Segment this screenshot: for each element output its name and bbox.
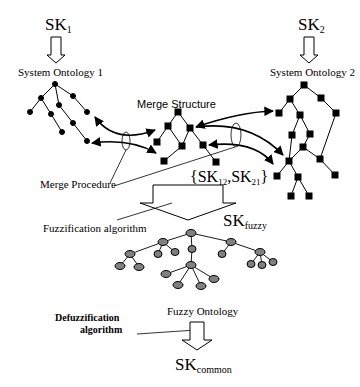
fuzzification-down-arrow (140, 185, 236, 220)
sk2-down-arrow (300, 37, 318, 63)
sk1-label: SK1 (45, 15, 72, 35)
sk-common-label: SKcommon (175, 355, 232, 375)
merge-arrows-left (92, 117, 156, 153)
defuzzification-leader (137, 330, 196, 334)
diagram-svg: SK1 SK2 System Ontology 1 System Ontolog… (0, 0, 360, 387)
defuzzification-down-arrow (182, 322, 212, 350)
system-ontology-1-label: System Ontology 1 (18, 66, 103, 78)
system-ontology-1-tree (28, 82, 90, 144)
sk2-label: SK2 (298, 15, 325, 35)
merge-structure-tree (154, 109, 219, 165)
system-ontology-2-label: System Ontology 2 (270, 66, 355, 78)
sk1-down-arrow (47, 37, 65, 63)
ontology-merge-diagram: SK1 SK2 System Ontology 1 System Ontolog… (0, 0, 360, 387)
merge-ellipse-right (231, 123, 241, 147)
fuzzy-ontology-tree (120, 233, 273, 286)
merge-structure-label: Merge Structure (137, 98, 216, 110)
defuzzification-label-line2: algorithm (80, 324, 123, 335)
fuzzy-ontology-label: Fuzzy Ontology (167, 305, 239, 317)
defuzzification-label-line1: Defuzzification (55, 312, 120, 323)
merge-arrows-right (196, 111, 283, 164)
merge-procedure-label: Merge Procedure (40, 178, 116, 190)
system-ontology-2-tree (274, 82, 339, 199)
merge-procedure-leader-1 (110, 150, 126, 183)
fuzzification-algorithm-label: Fuzzification algorithm (43, 222, 147, 234)
sk12-sk21-label: {SK12,SK21} (190, 168, 268, 187)
sk-fuzzy-label: SKfuzzy (223, 211, 267, 231)
fuzzy-ontology-nodes (115, 230, 277, 290)
